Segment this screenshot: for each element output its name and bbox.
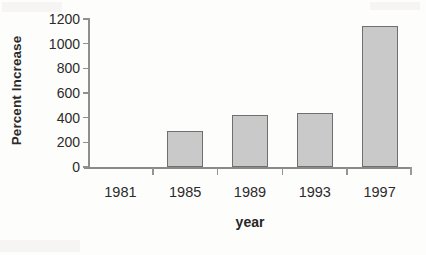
x-axis-line xyxy=(84,167,412,169)
scan-artifact xyxy=(370,2,420,10)
plot-area xyxy=(88,19,412,167)
x-axis-title-label: year xyxy=(236,214,265,230)
y-axis-tick-label: 800 xyxy=(57,61,80,75)
x-axis-tick-label: 1997 xyxy=(363,184,395,200)
y-axis-tick-mark xyxy=(83,117,88,119)
bar-1985 xyxy=(167,131,203,167)
y-axis-tick-mark xyxy=(83,142,88,144)
y-axis-tick-label: 1000 xyxy=(49,37,80,51)
x-axis-tick-mark xyxy=(282,168,284,175)
y-axis-tick-mark xyxy=(83,166,88,168)
x-axis-tick-label: 1985 xyxy=(169,184,201,200)
x-axis-tick-label: 1989 xyxy=(234,184,266,200)
y-axis-tick-label: 400 xyxy=(57,111,80,125)
y-axis-tick-label: 600 xyxy=(57,86,80,100)
y-axis-title: Percent Increase xyxy=(0,0,34,180)
x-axis-tick-label: 1993 xyxy=(299,184,331,200)
y-axis-tick-labels: 020040060080010001200 xyxy=(34,12,84,174)
y-axis-tick-mark xyxy=(83,18,88,20)
y-axis-tick-label: 0 xyxy=(72,160,80,174)
y-axis-tick-label: 200 xyxy=(57,135,80,149)
x-axis-tick-labels: 19811985198919931997 xyxy=(88,184,412,206)
y-axis-tick-mark xyxy=(83,43,88,45)
y-axis-title-label: Percent Increase xyxy=(10,35,25,145)
x-axis-tick-mark xyxy=(217,168,219,175)
bar-1989 xyxy=(232,115,268,167)
y-axis-line xyxy=(88,18,90,168)
x-axis-tick-mark xyxy=(346,168,348,175)
x-axis-tick-label: 1981 xyxy=(104,184,136,200)
bar-1993 xyxy=(297,113,333,167)
x-axis-end-tick xyxy=(410,167,412,175)
bar-chart-figure: Percent Increase 020040060080010001200 1… xyxy=(0,0,426,255)
y-axis-tick-mark xyxy=(83,92,88,94)
y-axis-tick-mark xyxy=(83,68,88,70)
scan-artifact xyxy=(0,240,80,252)
x-axis-tick-mark xyxy=(152,168,154,175)
x-axis-title: year xyxy=(88,214,412,230)
bar-1997 xyxy=(362,26,398,167)
y-axis-tick-label: 1200 xyxy=(49,12,80,26)
